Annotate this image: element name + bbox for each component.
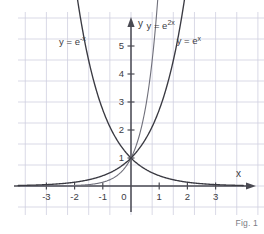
x-tick-label: -1 — [99, 191, 107, 202]
x-tick-label: -3 — [42, 191, 50, 202]
x-tick-label: -2 — [70, 191, 78, 202]
x-tick-label: 2 — [185, 191, 190, 202]
y-tick-label: 1 — [119, 152, 124, 163]
y-axis-title: y — [138, 18, 143, 29]
x-tick-label: 3 — [213, 191, 218, 202]
y-tick-label: 4 — [119, 68, 124, 79]
y-tick-label: 3 — [119, 96, 124, 107]
x-axis-title: x — [236, 168, 241, 179]
curve-label-1: y = e2x — [147, 19, 176, 30]
figure-caption: Fig. 1 — [236, 218, 258, 228]
x-tick-label: 1 — [157, 191, 162, 202]
axes — [14, 17, 256, 212]
curve-label-0: y = e-x — [59, 35, 86, 46]
exponential-functions-chart: -3-2-1012312345 xy y = e-xy = e2xy = ex — [0, 0, 264, 234]
y-tick-label: 5 — [119, 40, 124, 51]
x-tick-label: 0 — [121, 191, 126, 202]
curve-label-2: y = ex — [177, 35, 202, 46]
y-tick-label: 2 — [119, 124, 124, 135]
figure-container: -3-2-1012312345 xy y = e-xy = e2xy = ex … — [0, 0, 264, 234]
tick-labels: -3-2-1012312345 — [42, 40, 218, 202]
